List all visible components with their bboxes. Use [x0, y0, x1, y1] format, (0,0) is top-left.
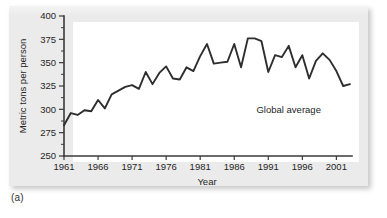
x-tick-label: 1986	[224, 161, 245, 172]
x-axis-title: Year	[197, 176, 216, 187]
y-tick-label: 250	[40, 150, 56, 161]
y-tick-label: 275	[40, 127, 56, 138]
annotation-global-average: Global average	[256, 104, 320, 115]
x-tick-label: 1961	[53, 161, 74, 172]
axes-group	[59, 16, 352, 160]
chart-svg: 250275300325350375400 196119661971197619…	[0, 0, 387, 218]
x-axis-tick-labels: 196119661971197619811986199119962001	[53, 161, 347, 172]
figure-root: 250275300325350375400 196119661971197619…	[0, 0, 387, 218]
x-tick-label: 1976	[156, 161, 177, 172]
y-axis-title: Metric tons per person	[17, 39, 28, 134]
x-tick-label: 1971	[122, 161, 143, 172]
x-tick-label: 1966	[87, 161, 108, 172]
panel-caption: (a)	[11, 192, 24, 203]
y-tick-label: 350	[40, 57, 56, 68]
x-tick-label: 1991	[258, 161, 279, 172]
y-tick-label: 400	[40, 10, 56, 21]
x-tick-label: 1996	[292, 161, 313, 172]
y-tick-label: 375	[40, 34, 56, 45]
x-tick-label: 1981	[190, 161, 211, 172]
x-tick-label: 2001	[326, 161, 347, 172]
y-tick-label: 325	[40, 80, 56, 91]
y-tick-label: 300	[40, 104, 56, 115]
y-axis-tick-labels: 250275300325350375400	[40, 10, 56, 161]
